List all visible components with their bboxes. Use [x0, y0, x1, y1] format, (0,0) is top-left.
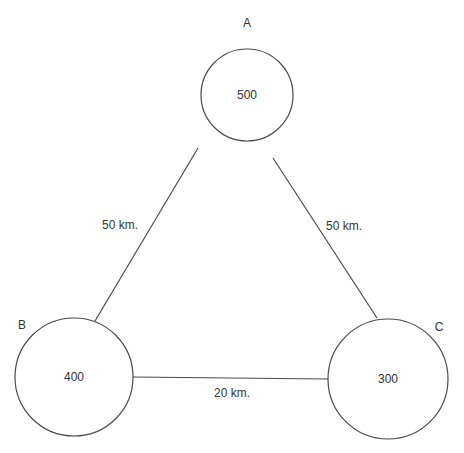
edge-a-b — [95, 148, 198, 321]
edge-labels: 50 km. 50 km. 20 km. — [102, 218, 362, 400]
edge-b-c — [133, 377, 328, 379]
node-c-name: C — [435, 320, 444, 334]
node-b: 400 B — [15, 318, 133, 436]
node-c-value: 300 — [378, 372, 398, 386]
edge-label-a-b: 50 km. — [102, 218, 138, 232]
edge-a-c — [273, 158, 377, 318]
node-a-name: A — [243, 16, 251, 30]
distance-network-diagram: 50 km. 50 km. 20 km. 500 A 400 B 300 C — [0, 0, 464, 453]
node-a-value: 500 — [237, 88, 257, 102]
node-a: 500 A — [201, 16, 293, 141]
node-c: 300 C — [328, 319, 448, 439]
node-b-name: B — [18, 318, 26, 332]
edge-label-a-c: 50 km. — [326, 219, 362, 233]
edge-label-b-c: 20 km. — [214, 386, 250, 400]
node-b-value: 400 — [64, 370, 84, 384]
edges — [95, 148, 377, 379]
